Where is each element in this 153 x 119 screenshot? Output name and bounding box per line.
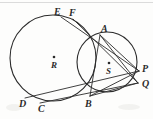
point-label-Q: Q bbox=[142, 79, 149, 89]
point-label-A: A bbox=[101, 24, 108, 34]
segment-D-P bbox=[25, 71, 139, 98]
point-label-P: P bbox=[142, 64, 148, 74]
center-dot-R bbox=[53, 56, 56, 59]
center-dot-S bbox=[108, 62, 111, 65]
point-label-C: C bbox=[38, 104, 45, 114]
center-label-R: R bbox=[51, 61, 57, 70]
segment-E-P bbox=[61, 17, 139, 71]
circle-R bbox=[10, 15, 96, 101]
point-label-D: D bbox=[19, 99, 26, 109]
segment-B-Q bbox=[90, 83, 138, 96]
point-label-E: E bbox=[54, 7, 61, 17]
point-label-F: F bbox=[69, 8, 76, 18]
segment-A-B bbox=[90, 35, 100, 96]
point-label-B: B bbox=[85, 99, 92, 109]
geometry-figure: E F A P Q B C D R S bbox=[0, 0, 153, 119]
segment-B-P bbox=[90, 71, 139, 96]
center-label-S: S bbox=[106, 67, 111, 76]
